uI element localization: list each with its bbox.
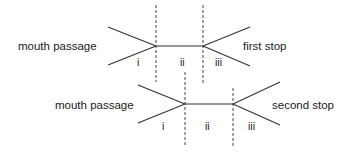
second-zone-iii: iii bbox=[248, 120, 255, 132]
second-stop-diagram: mouth passage i ii iii second stop bbox=[55, 72, 334, 148]
first-zone-i: i bbox=[137, 56, 139, 68]
second-mouth-passage-label: mouth passage bbox=[55, 99, 134, 111]
diagram-canvas: mouth passage i ii iii first stop mouth … bbox=[0, 0, 350, 155]
second-left-upper-line bbox=[138, 85, 185, 104]
second-stop-label: second stop bbox=[272, 99, 334, 111]
first-stop-diagram: mouth passage i ii iii first stop bbox=[18, 5, 286, 85]
first-stop-label: first stop bbox=[243, 40, 286, 52]
first-zone-iii: iii bbox=[215, 56, 222, 68]
first-left-upper-line bbox=[108, 27, 156, 46]
second-zone-ii: ii bbox=[205, 120, 210, 132]
first-left-lower-line bbox=[108, 46, 156, 65]
second-zone-i: i bbox=[162, 120, 164, 132]
first-zone-ii: ii bbox=[180, 56, 185, 68]
stop-constriction-diagram: mouth passage i ii iii first stop mouth … bbox=[0, 0, 350, 155]
first-mouth-passage-label: mouth passage bbox=[18, 40, 97, 52]
